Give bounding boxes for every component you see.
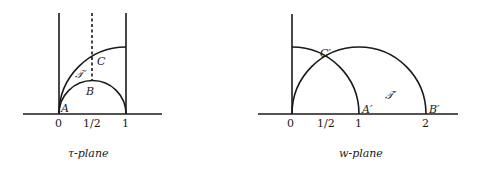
tau-tick-half: 1/2 xyxy=(83,117,101,130)
w-label-A: A′ xyxy=(361,103,373,116)
w-region-label: 𝒯′ xyxy=(385,89,397,102)
tau-caption: τ-plane xyxy=(68,147,109,160)
figure-canvas: C 𝒯 B A 0 1/2 1 τ-plane C′ 𝒯′ A′ B′ 0 1/… xyxy=(0,0,480,173)
w-label-C: C′ xyxy=(320,47,331,60)
w-caption: w-plane xyxy=(339,147,383,160)
tau-label-B: B xyxy=(85,85,94,98)
tau-plane-figure: C 𝒯 B A 0 1/2 1 τ-plane xyxy=(23,13,162,160)
tau-label-A: A xyxy=(60,102,69,115)
w-tick-2: 2 xyxy=(422,117,429,130)
tau-tick-0: 0 xyxy=(55,117,62,130)
w-tick-0: 0 xyxy=(287,117,294,130)
tau-label-C: C xyxy=(97,55,106,68)
w-tick-half: 1/2 xyxy=(317,117,335,130)
tau-region-label: 𝒯 xyxy=(75,68,87,81)
w-plane-figure: C′ 𝒯′ A′ B′ 0 1/2 1 2 w-plane xyxy=(258,14,458,160)
w-label-B: B′ xyxy=(428,103,440,116)
tau-tick-1: 1 xyxy=(122,117,129,130)
w-tick-1: 1 xyxy=(355,117,362,130)
